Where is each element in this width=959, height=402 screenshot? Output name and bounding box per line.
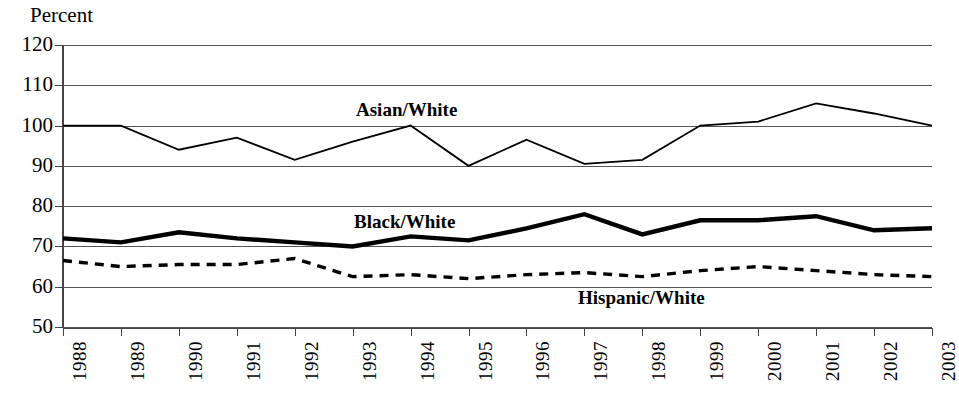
x-tick-mark (63, 328, 64, 336)
y-tick-label: 70 (7, 235, 53, 256)
y-tick-mark (55, 166, 63, 167)
x-tick-mark (874, 328, 875, 336)
y-tick-label: 80 (7, 195, 53, 216)
y-tick-mark (55, 206, 63, 207)
y-tick-label: 120 (7, 34, 53, 55)
gridline (63, 45, 932, 46)
x-tick-mark (179, 328, 180, 336)
x-tick-mark (121, 328, 122, 336)
x-tick-mark (932, 328, 933, 336)
y-tick-label: 60 (7, 276, 53, 297)
gridline (63, 206, 932, 207)
gridline (63, 287, 932, 288)
x-tick-mark (353, 328, 354, 336)
y-tick-mark (55, 126, 63, 127)
x-tick-mark (700, 328, 701, 336)
x-tick-label: 1990 (186, 341, 205, 381)
x-tick-label: 2002 (881, 341, 900, 381)
x-tick-mark (642, 328, 643, 336)
x-tick-mark (295, 328, 296, 336)
gridline (63, 246, 932, 247)
y-axis-tick-labels: 1201101009080706050 (0, 0, 53, 402)
x-tick-mark (526, 328, 527, 336)
x-tick-label: 1993 (360, 341, 379, 381)
cropped-caption-sliver (110, 0, 630, 3)
x-tick-label: 1989 (128, 341, 147, 381)
gridline (63, 85, 932, 86)
gridline (63, 166, 932, 167)
gridline (63, 327, 932, 328)
y-tick-label: 110 (7, 74, 53, 95)
x-tick-label: 1994 (418, 341, 437, 381)
x-tick-label: 1997 (591, 341, 610, 381)
x-tick-mark (237, 328, 238, 336)
y-tick-mark (55, 85, 63, 86)
y-tick-mark (55, 327, 63, 328)
plot-area (63, 45, 932, 327)
x-tick-label: 1996 (533, 341, 552, 381)
x-tick-mark (411, 328, 412, 336)
series-label-hispanic-white: Hispanic/White (578, 288, 705, 307)
y-tick-label: 90 (7, 155, 53, 176)
x-tick-mark (469, 328, 470, 336)
x-tick-label: 1999 (707, 341, 726, 381)
y-tick-mark (55, 246, 63, 247)
x-tick-mark (816, 328, 817, 336)
y-tick-label: 50 (7, 316, 53, 337)
y-tick-label: 100 (7, 115, 53, 136)
x-tick-label: 1998 (649, 341, 668, 381)
series-label-asian-white: Asian/White (356, 100, 457, 119)
y-tick-mark (55, 287, 63, 288)
x-tick-label: 2003 (939, 341, 958, 381)
x-tick-label: 1995 (476, 341, 495, 381)
series-label-black-white: Black/White (354, 212, 455, 231)
gridline (63, 126, 932, 127)
y-tick-mark (55, 45, 63, 46)
x-tick-label: 1991 (244, 341, 263, 381)
x-tick-mark (758, 328, 759, 336)
x-tick-label: 2000 (765, 341, 784, 381)
x-tick-label: 2001 (823, 341, 842, 381)
x-tick-label: 1988 (70, 341, 89, 381)
x-tick-mark (584, 328, 585, 336)
x-tick-label: 1992 (302, 341, 321, 381)
